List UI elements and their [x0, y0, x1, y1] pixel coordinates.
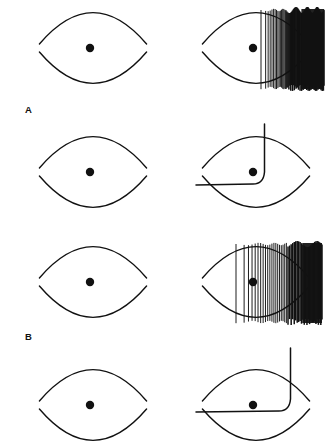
spike-train-row-1 — [261, 7, 324, 91]
figure-background — [0, 0, 332, 447]
center-dot-row-1-left — [86, 44, 94, 52]
group-label-a: A — [25, 104, 32, 115]
figure-root: AB — [0, 0, 332, 447]
spike-saturation-block — [302, 243, 322, 323]
center-dot-row-4-left — [86, 401, 94, 409]
center-dot-row-1-right — [249, 44, 257, 52]
center-dot-row-2-left — [86, 168, 94, 176]
center-dot-row-3-left — [86, 278, 94, 286]
figure-canvas: AB — [0, 0, 332, 447]
center-dot-row-4-right — [249, 401, 257, 409]
spike-saturation-block — [301, 9, 324, 89]
center-dot-row-2-right — [249, 168, 257, 176]
group-label-b: B — [25, 331, 32, 342]
center-dot-row-3-right — [249, 278, 257, 286]
